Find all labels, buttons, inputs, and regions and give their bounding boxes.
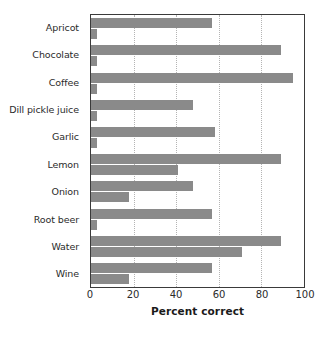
bar — [91, 263, 212, 273]
bar — [91, 127, 215, 137]
bar — [91, 84, 97, 94]
bar — [91, 56, 97, 66]
category-label: Apricot — [46, 23, 79, 33]
bar-group — [91, 69, 304, 96]
category-label: Coffee — [49, 78, 79, 88]
x-axis-title: Percent correct — [90, 305, 305, 317]
x-tick-label: 80 — [256, 289, 269, 301]
category-label: Root beer — [34, 215, 79, 225]
bar — [91, 45, 281, 55]
plot-area — [90, 14, 305, 288]
category-label-cell: Lemon — [0, 151, 84, 178]
bar — [91, 100, 193, 110]
bar-group — [91, 205, 304, 232]
x-tick-label: 0 — [87, 289, 93, 301]
category-label-cell: Coffee — [0, 69, 84, 96]
category-label-cell: Water — [0, 233, 84, 260]
bar — [91, 154, 281, 164]
category-label-cell: Garlic — [0, 124, 84, 151]
x-tick-label: 60 — [213, 289, 226, 301]
bar — [91, 29, 97, 39]
category-label: Garlic — [52, 132, 79, 142]
category-label: Water — [51, 242, 79, 252]
bars-layer — [91, 15, 304, 287]
bar — [91, 192, 129, 202]
bar — [91, 73, 293, 83]
x-axis-tick-labels: 020406080100 — [90, 289, 305, 303]
x-tick-label: 40 — [170, 289, 183, 301]
category-axis-labels: ApricotChocolateCoffeeDill pickle juiceG… — [0, 14, 84, 288]
category-label-cell: Dill pickle juice — [0, 96, 84, 123]
bar — [91, 181, 193, 191]
category-label-cell: Chocolate — [0, 41, 84, 68]
category-label: Onion — [52, 187, 79, 197]
bar — [91, 111, 97, 121]
category-label-cell: Wine — [0, 261, 84, 288]
bar — [91, 165, 178, 175]
bar-group — [91, 15, 304, 42]
bar — [91, 247, 242, 257]
category-label: Chocolate — [32, 50, 79, 60]
bar — [91, 236, 281, 246]
category-label-cell: Onion — [0, 178, 84, 205]
bar-group — [91, 178, 304, 205]
x-tick-label: 100 — [295, 289, 314, 301]
bar-group — [91, 260, 304, 287]
bar — [91, 138, 97, 148]
category-label-cell: Root beer — [0, 206, 84, 233]
bar-group — [91, 124, 304, 151]
bar — [91, 274, 129, 284]
category-label-cell: Apricot — [0, 14, 84, 41]
x-tick-label: 20 — [127, 289, 140, 301]
percent-correct-bar-chart: ApricotChocolateCoffeeDill pickle juiceG… — [0, 0, 330, 340]
bar-group — [91, 151, 304, 178]
bar — [91, 220, 97, 230]
bar — [91, 18, 212, 28]
bar-group — [91, 97, 304, 124]
category-label: Dill pickle juice — [9, 105, 79, 115]
category-label: Wine — [56, 269, 79, 279]
bar — [91, 209, 212, 219]
bar-group — [91, 42, 304, 69]
category-label: Lemon — [47, 160, 79, 170]
bar-group — [91, 233, 304, 260]
